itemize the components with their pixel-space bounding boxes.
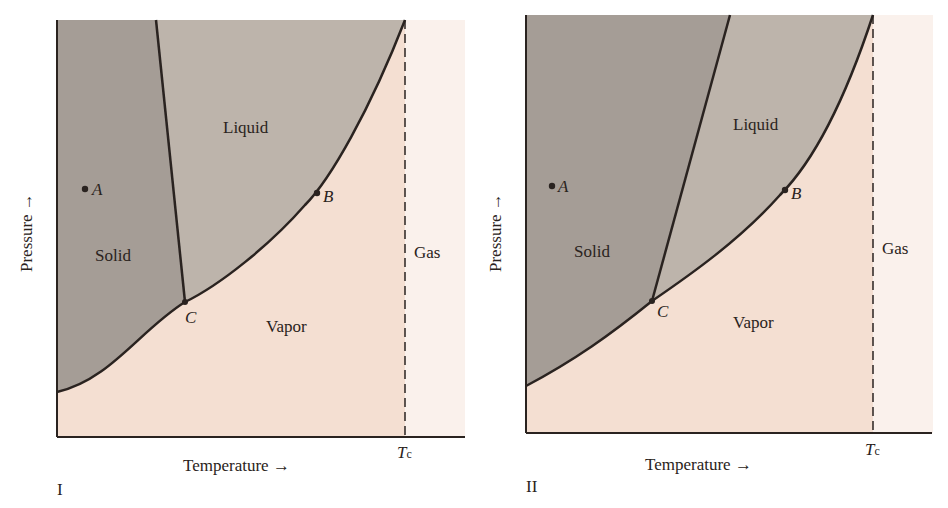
gas-label: Gas <box>882 239 908 259</box>
point-b-marker <box>314 190 320 196</box>
vapor-label: Vapor <box>733 313 774 333</box>
point-a-marker <box>82 186 88 192</box>
panel-1-plot <box>57 20 465 437</box>
x-axis-label: Temperature → <box>183 456 290 476</box>
liquid-label: Liquid <box>223 118 268 138</box>
solid-label: Solid <box>574 242 610 262</box>
x-axis-label: Temperature → <box>645 455 752 475</box>
gas-label: Gas <box>414 243 440 263</box>
point-b-label: B <box>323 187 333 207</box>
point-c-label: C <box>657 302 668 322</box>
point-a-marker <box>549 183 555 189</box>
y-axis-label: Pressure → <box>486 193 506 272</box>
point-c-marker <box>649 298 655 304</box>
point-b-label: B <box>791 184 801 204</box>
point-c-marker <box>182 299 188 305</box>
solid-label: Solid <box>95 246 131 266</box>
gas-region <box>405 20 465 437</box>
point-b-marker <box>782 187 788 193</box>
liquid-label: Liquid <box>733 115 778 135</box>
panel-2-plot <box>526 15 933 433</box>
point-a-label: A <box>92 180 102 200</box>
vapor-label: Vapor <box>266 317 307 337</box>
panel-caption: II <box>526 477 537 497</box>
critical-temperature-label: Tc <box>865 440 880 460</box>
gas-region <box>873 15 933 433</box>
point-a-label: A <box>558 177 568 197</box>
critical-temperature-label: Tc <box>397 443 412 463</box>
phase-diagrams <box>0 0 948 508</box>
point-c-label: C <box>185 308 196 328</box>
panel-caption: I <box>57 480 63 500</box>
y-axis-label: Pressure → <box>17 193 37 272</box>
